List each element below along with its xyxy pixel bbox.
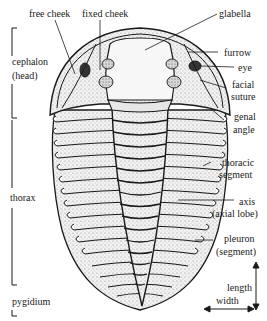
pygidium-bracket	[12, 310, 17, 316]
label-segment: segment	[219, 169, 252, 180]
label-free-cheek: free cheek	[29, 8, 70, 19]
width-arrow	[204, 306, 254, 312]
label-genal: genal	[234, 111, 256, 122]
label-furrow: furrow	[224, 47, 251, 58]
label-glabella: glabella	[219, 8, 251, 19]
label-pleuron-segment: (segment)	[216, 246, 256, 257]
label-facial: facial	[232, 79, 254, 90]
label-axis: axis	[239, 196, 255, 207]
label-head: (head)	[12, 70, 38, 81]
label-eye: eye	[238, 62, 252, 73]
label-thorax: thorax	[10, 192, 36, 203]
label-cephalon: cephalon	[12, 56, 48, 67]
label-angle: angle	[233, 124, 255, 135]
label-pleuron: pleuron	[224, 233, 255, 244]
label-pygidium: pygidium	[12, 296, 50, 307]
label-thoracic: thoracic	[222, 157, 254, 168]
label-length: length	[227, 282, 252, 293]
label-fixed-cheek: fixed cheek	[82, 8, 128, 19]
left-eye	[80, 63, 90, 77]
label-width: width	[216, 295, 239, 306]
length-arrow	[253, 262, 259, 310]
label-axial-lobe: (axial lobe)	[212, 208, 258, 219]
label-suture: suture	[231, 91, 255, 102]
glabella	[106, 38, 174, 100]
